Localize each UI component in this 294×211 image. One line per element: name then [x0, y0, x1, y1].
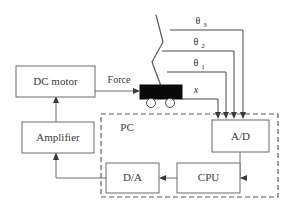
arrowhead-theta1-to-ad: [223, 112, 229, 119]
pendulum-linkage: [152, 15, 163, 86]
block-da[interactable]: D/A: [106, 163, 159, 193]
figure-canvas: PC: [0, 0, 294, 211]
cart-body: [140, 85, 182, 99]
theta1-subscript: 1: [201, 63, 205, 71]
block-ad[interactable]: A/D: [212, 120, 269, 152]
signal-wire-theta3: [170, 30, 243, 112]
block-da-label: D/A: [123, 171, 142, 183]
theta2-subscript: 2: [201, 42, 205, 50]
theta3-symbol: θ: [196, 15, 201, 26]
arrowhead-ad-to-cpu: [240, 175, 247, 181]
da-to-amplifier-wire: [56, 160, 106, 178]
block-amplifier[interactable]: Amplifier: [22, 122, 94, 153]
block-dc-motor[interactable]: DC motor: [16, 66, 95, 97]
signal-label-x: x: [193, 84, 199, 95]
arrowhead-theta2-to-ad: [231, 112, 237, 119]
theta1-symbol: θ: [194, 57, 199, 68]
cart-wheel-right: [166, 99, 175, 108]
signal-label-theta1: θ 1: [194, 57, 206, 71]
arrowhead-x-to-ad: [215, 112, 221, 119]
arrowhead-force: [133, 88, 140, 94]
theta2-symbol: θ: [194, 36, 199, 47]
arrowhead-theta3-to-ad: [240, 112, 246, 119]
signal-label-theta3: θ 3: [196, 15, 208, 29]
cart-wheel-left: [147, 99, 156, 108]
block-cpu-label: CPU: [198, 171, 219, 183]
block-diagram: PC: [0, 0, 294, 211]
theta3-subscript: 3: [203, 21, 207, 29]
force-label: Force: [108, 74, 131, 85]
block-amplifier-label: Amplifier: [36, 131, 80, 143]
signal-wire-x: [182, 99, 218, 112]
pc-enclosure-label: PC: [120, 121, 133, 133]
ad-to-cpu-wire: [240, 152, 247, 178]
signal-label-theta2: θ 2: [194, 36, 206, 50]
block-cpu[interactable]: CPU: [177, 163, 240, 193]
block-ad-label: A/D: [231, 130, 250, 142]
block-dc-motor-label: DC motor: [33, 75, 78, 87]
arrowhead-cpu-to-da: [159, 175, 166, 181]
